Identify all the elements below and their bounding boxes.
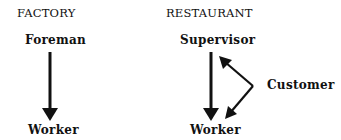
arrows-layer <box>0 0 341 140</box>
customer-to-worker-arrow <box>225 86 253 119</box>
supervisor-to-worker-arrow <box>203 52 219 121</box>
foreman-to-worker-arrow <box>42 52 58 121</box>
customer-to-supervisor-arrow <box>219 56 253 86</box>
